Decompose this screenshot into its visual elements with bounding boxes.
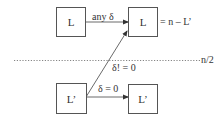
node-top-right-annotation: = n – L’: [160, 17, 192, 27]
node-bottom-left: L’: [56, 83, 87, 114]
node-bottom-left-label: L’: [67, 93, 76, 105]
node-bottom-right-label: L’: [138, 93, 147, 105]
threshold-label: n/2: [201, 55, 214, 65]
node-top-left: L: [56, 7, 86, 37]
node-top-left-label: L: [68, 16, 75, 28]
node-top-right: L: [128, 7, 158, 37]
edge-bottom-label: δ = 0: [98, 84, 118, 94]
node-bottom-right: L’: [128, 84, 158, 114]
node-top-right-label: L: [140, 16, 147, 28]
edge-diagonal-label: δ! = 0: [112, 63, 136, 73]
edge-top-label: any δ: [92, 12, 114, 22]
